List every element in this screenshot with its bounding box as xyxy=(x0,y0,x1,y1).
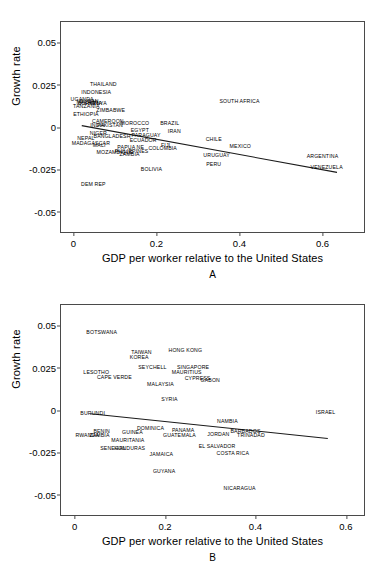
data-point-label: KOREA xyxy=(130,355,149,360)
x-tick-b-2: 0.4 xyxy=(249,515,262,532)
data-point-label: ZAMBIA xyxy=(89,434,109,439)
x-tick-b-3: 0.6 xyxy=(339,515,352,532)
data-point-label: MAURITANIA xyxy=(111,438,144,443)
x-tick-a-3: 0.6 xyxy=(316,232,329,249)
data-point-label: BURUNDI xyxy=(80,411,105,416)
y-axis-label-a: Growth rate xyxy=(10,16,22,136)
data-point-label: ECUADOR xyxy=(130,138,157,143)
data-point-label: NAMBIA xyxy=(217,419,238,424)
y-tick-b-1: 0.025 xyxy=(32,362,61,373)
data-point-label: NICARAGUA xyxy=(224,487,256,492)
y-tick-a-3: -0.025 xyxy=(29,164,61,175)
data-point-label: BANGLADESH xyxy=(94,135,131,140)
data-point-label: URUGUAY xyxy=(203,154,230,159)
data-point-label: VENEZUELA xyxy=(311,165,343,170)
plot-area-a: 0.050.0250-0.025-0.0500.20.40.6THAILANDI… xyxy=(60,21,365,233)
data-point-label: GUINEA xyxy=(122,430,143,435)
y-tick-b-4: -0.05 xyxy=(34,489,61,500)
data-point-label: MALI xyxy=(93,143,106,148)
data-point-label: EL SALVADOR xyxy=(199,444,236,449)
panel-b: Growth rate 0.050.0250-0.025-0.0500.20.4… xyxy=(0,283,384,565)
data-point-label: GABON xyxy=(200,378,220,383)
x-tick-b-1: 0.2 xyxy=(158,515,171,532)
data-point-label: MEXICO xyxy=(230,145,251,150)
y-tick-b-3: -0.025 xyxy=(29,447,61,458)
data-point-label: INDONESIA xyxy=(81,91,111,96)
x-tick-b-0: 0 xyxy=(72,515,77,532)
data-point-label: ZIMBABWE xyxy=(96,108,125,113)
data-point-label: CAPE VERDE xyxy=(97,375,132,380)
data-point-label: MALAYSIA xyxy=(147,382,174,387)
x-tick-a-0: 0 xyxy=(71,232,76,249)
figure-growth-rate-vs-gdp: Growth rate 0.050.0250-0.025-0.0500.20.4… xyxy=(0,0,384,565)
data-point-label: CHILE xyxy=(206,138,222,143)
y-tick-b-0: 0.05 xyxy=(38,320,62,331)
data-point-label: BOTSWANA xyxy=(86,331,117,336)
y-tick-a-1: 0.025 xyxy=(32,79,61,90)
x-tick-a-2: 0.4 xyxy=(233,232,246,249)
data-point-label: ISRAEL xyxy=(316,411,335,416)
data-point-label: DEM REP xyxy=(81,182,106,187)
y-tick-b-2: 0 xyxy=(51,405,61,416)
x-axis-label-b: GDP per worker relative to the United St… xyxy=(60,535,365,547)
panel-letter-a: A xyxy=(60,269,365,280)
y-tick-a-0: 0.05 xyxy=(38,37,62,48)
data-point-label: SOUTH AFRICA xyxy=(219,99,259,104)
panel-a: Growth rate 0.050.0250-0.025-0.0500.20.4… xyxy=(0,0,384,283)
data-point-label: GUYANA xyxy=(153,470,175,475)
y-axis-label-b: Growth rate xyxy=(10,299,22,419)
data-point-label: COLOMBIA xyxy=(148,147,177,152)
data-point-label: PAKISTAN xyxy=(97,123,123,128)
data-point-label: SEYCHELL xyxy=(138,365,166,370)
y-tick-a-2: 0 xyxy=(51,122,61,133)
data-point-label: SYRIA xyxy=(161,397,177,402)
data-point-label: GUATEMALA xyxy=(163,434,196,439)
x-axis-label-a: GDP per worker relative to the United St… xyxy=(60,252,365,264)
data-point-label: ZAMBIA xyxy=(119,153,139,158)
data-point-label: MOROCCO xyxy=(121,122,150,127)
data-point-label: TRINADAD xyxy=(237,434,265,439)
data-point-label: BOLIVIA xyxy=(141,167,162,172)
plot-area-b: 0.050.0250-0.025-0.0500.20.40.6BOTSWANAT… xyxy=(60,304,365,516)
data-point-label: COSTA RICA xyxy=(217,451,250,456)
data-point-label: ETHIOPIA xyxy=(73,113,98,118)
data-point-label: JORDAN xyxy=(207,432,229,437)
data-point-label: BRAZIL xyxy=(160,121,179,126)
data-point-label: HONG KONG xyxy=(169,348,203,353)
data-point-label: THAILAND xyxy=(90,82,117,87)
data-point-label: PERU xyxy=(206,162,221,167)
x-tick-a-1: 0.2 xyxy=(150,232,163,249)
data-point-label: HONDURAS xyxy=(114,446,145,451)
data-point-label: IRAN xyxy=(168,130,181,135)
data-point-label: JAMAICA xyxy=(150,453,174,458)
data-point-label: ARGENTINA xyxy=(307,155,339,160)
panel-letter-b: B xyxy=(60,552,365,563)
y-tick-a-4: -0.05 xyxy=(34,206,61,217)
